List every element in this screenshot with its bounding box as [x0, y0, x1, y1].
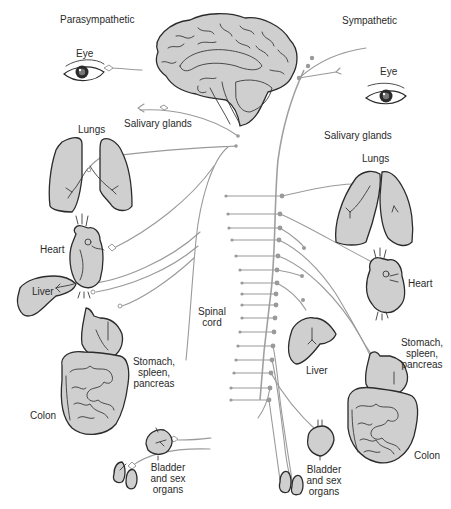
symp-liver-label: Liver [306, 365, 328, 376]
spinal-cord-label: Spinal cord [196, 306, 228, 328]
parasympathetic-title: Parasympathetic [60, 14, 134, 25]
right-heart [367, 248, 405, 320]
left-stomach-colon [61, 308, 128, 434]
left-bladder [146, 428, 172, 460]
para-eye-label: Eye [76, 48, 93, 59]
para-liver-label: Liver [32, 286, 54, 297]
right-lungs [336, 171, 413, 245]
left-eye [64, 60, 104, 81]
left-lungs [49, 138, 132, 212]
para-bladder-label: Bladder and sex organs [150, 462, 186, 495]
symp-lungs-label: Lungs [362, 153, 389, 164]
right-eye [366, 83, 406, 104]
para-salivary-label: Salivary glands [124, 118, 192, 129]
para-heart-label: Heart [40, 244, 64, 255]
para-stomach-label: Stomach, spleen, pancreas [132, 356, 176, 389]
symp-bladder-label: Bladder and sex organs [306, 464, 342, 497]
symp-colon-label: Colon [414, 450, 440, 461]
symp-stomach-label: Stomach, spleen, pancreas [398, 337, 446, 370]
symp-salivary-label: Salivary glands [324, 130, 392, 141]
para-colon-label: Colon [30, 410, 56, 421]
brain [156, 14, 297, 126]
symp-eye-label: Eye [380, 66, 397, 77]
symp-heart-label: Heart [408, 278, 432, 289]
sympathetic-title: Sympathetic [342, 15, 397, 26]
right-liver [289, 318, 336, 364]
para-lungs-label: Lungs [78, 124, 105, 135]
